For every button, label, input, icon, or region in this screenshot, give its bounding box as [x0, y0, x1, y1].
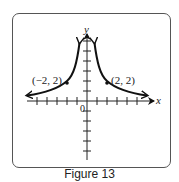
point-2-2: [105, 81, 109, 85]
right-branch-curve: [95, 43, 148, 96]
point-neg2-2: [65, 81, 69, 85]
figure-caption: Figure 13: [0, 167, 179, 181]
point-label-left: (−2, 2): [32, 74, 62, 87]
point-label-right: (2, 2): [111, 74, 135, 87]
graph: (−2, 2) (2, 2) x y 0: [0, 0, 179, 182]
x-axis-label: x: [155, 94, 161, 106]
origin-label: 0: [80, 103, 85, 114]
y-axis-label: y: [83, 23, 89, 35]
left-branch-curve: [27, 43, 80, 96]
